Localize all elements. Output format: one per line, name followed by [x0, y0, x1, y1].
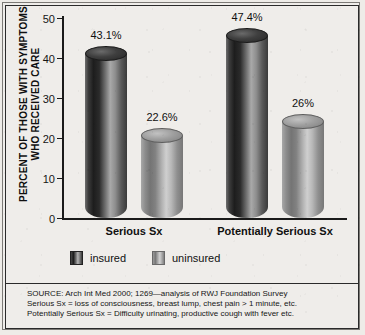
- bar-serious-uninsured[interactable]: [141, 128, 183, 218]
- bar-body: [226, 36, 268, 218]
- y-axis-title-line-1: PERCENT OF THOSE WITH SYMPTOMS: [18, 0, 30, 208]
- footnote-line-source: SOURCE: Arch Int Med 2000; 1269—analysis…: [27, 289, 347, 299]
- y-tick-label-0: 0: [30, 213, 55, 225]
- legend-item-uninsured[interactable]: uninsured: [152, 251, 220, 265]
- y-tick-30: [57, 98, 64, 99]
- y-tick-0: [57, 218, 64, 219]
- bar-body: [141, 136, 183, 218]
- category-label-potentially-serious-sx: Potentially Serious Sx: [215, 225, 335, 237]
- bar-top-ellipse: [282, 114, 324, 129]
- bar-top-ellipse: [226, 28, 268, 43]
- bar-top-ellipse: [85, 46, 127, 61]
- legend-swatch-icon-insured: [70, 251, 83, 265]
- footnote-line-potentially: Potentially Serious Sx = Difficulty urin…: [27, 309, 347, 319]
- bar-value-potentially-serious-uninsured: 26%: [268, 98, 338, 109]
- category-label-serious-sx: Serious Sx: [84, 225, 184, 237]
- bar-potentially-serious-insured[interactable]: [226, 28, 268, 218]
- y-tick-50: [57, 18, 64, 19]
- legend-item-insured[interactable]: insured: [70, 251, 126, 265]
- bar-serious-insured[interactable]: [85, 46, 127, 218]
- x-axis-line: [62, 218, 347, 220]
- legend-swatch-icon-uninsured: [152, 251, 165, 265]
- bar-value-serious-insured: 43.1%: [71, 30, 141, 41]
- bar-value-serious-uninsured: 22.6%: [127, 112, 197, 123]
- footnote-line-serious-sx: Serious Sx = loss of consciousness, brea…: [27, 299, 347, 309]
- y-tick-10: [57, 178, 64, 179]
- y-axis-title-line-2: WHO RECEIVED CARE: [30, 0, 42, 208]
- bar-top-ellipse: [141, 128, 183, 143]
- bar-value-potentially-serious-insured: 47.4%: [212, 12, 282, 23]
- bar-potentially-serious-uninsured[interactable]: [282, 114, 324, 218]
- footnote-block: SOURCE: Arch Int Med 2000; 1269—analysis…: [27, 289, 347, 319]
- y-axis-title: PERCENT OF THOSE WITH SYMPTOMS WHO RECEI…: [18, 0, 42, 208]
- chart-legend: insured uninsured: [62, 251, 342, 269]
- chart-page: 50 40 30 20 10 0 PERCENT OF THOSE WITH S…: [0, 0, 365, 335]
- bar-body: [282, 122, 324, 218]
- legend-label-uninsured: uninsured: [172, 252, 220, 264]
- legend-label-insured: insured: [90, 252, 126, 264]
- y-axis-line: [62, 16, 64, 220]
- footnote-divider: [6, 283, 358, 284]
- y-tick-40: [57, 58, 64, 59]
- bar-body: [85, 54, 127, 218]
- y-tick-20: [57, 138, 64, 139]
